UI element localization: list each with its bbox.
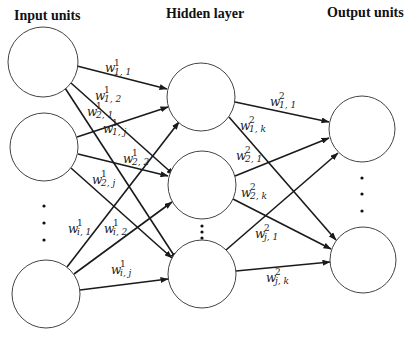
svg-text:1, j: 1, j: [112, 127, 126, 137]
weight-label-w1-i1: w 1 i, 1: [68, 218, 91, 237]
weight-label-w1-22: w 1 2, 2: [123, 148, 149, 167]
weight-label-w1-11: w 1 1, 1: [105, 58, 131, 77]
input-units-header: Input units: [14, 8, 81, 23]
weight-label-w2-j1: w 2 j, 1: [255, 223, 278, 242]
hidden-node-2: [168, 151, 236, 219]
svg-text:2, k: 2, k: [249, 191, 267, 201]
weight-label-w1-1j: w 1 1, j: [103, 118, 126, 137]
input-hidden-edges: [65, 66, 179, 290]
input-node-i: [12, 260, 80, 328]
svg-text:2, 1: 2, 1: [244, 154, 262, 164]
output-layer: [329, 96, 396, 293]
svg-text:1, 2: 1, 2: [104, 94, 121, 104]
output-node-1: [329, 96, 395, 162]
weight-label-w1-2j: w 1 2, j: [92, 169, 115, 188]
weight-label-w1-i2: w 1 i, 2: [104, 218, 128, 237]
svg-text:i, 1: i, 1: [77, 227, 91, 237]
edge-i3-h1: [67, 122, 179, 267]
output-ellipsis: [360, 176, 363, 212]
input-ellipsis: [42, 204, 45, 241]
svg-text:1, k: 1, k: [249, 124, 266, 134]
edge-h2-o2: [233, 199, 331, 249]
edge-h3-o1: [226, 153, 338, 250]
input-node-2: [10, 113, 78, 181]
weight-label-w2-2k: w 2 2, k: [241, 182, 267, 201]
svg-text:i, 2: i, 2: [113, 227, 128, 237]
hidden-layer-header: Hidden layer: [166, 6, 244, 21]
svg-text:1, 1: 1, 1: [279, 100, 296, 110]
weight-label-w2-jk: w 2 j, k: [266, 267, 289, 286]
weight-label-w1-ij: w 1 i, j: [111, 259, 132, 278]
input-layer: [8, 27, 80, 328]
svg-text:j, k: j, k: [273, 276, 289, 286]
output-units-header: Output units: [327, 5, 404, 20]
svg-text:2, j: 2, j: [100, 178, 115, 188]
hidden-ellipsis: [200, 224, 203, 239]
weight-label-w2-11: w 2 1, 1: [270, 91, 296, 110]
edge-h3-o2: [236, 262, 330, 271]
svg-text:i, j: i, j: [120, 268, 132, 278]
svg-text:2, 2: 2, 2: [131, 157, 149, 167]
hidden-layer: [167, 63, 236, 308]
output-node-k: [330, 227, 396, 293]
svg-text:j, 1: j, 1: [262, 232, 278, 242]
svg-text:2, 1: 2, 1: [95, 110, 113, 120]
edge-i3-h3: [80, 279, 168, 290]
edge-h1-o2: [229, 117, 336, 240]
weight-label-w2-1k: w 2 1, k: [240, 115, 266, 134]
svg-text:1, 1: 1, 1: [114, 67, 131, 77]
input-node-1: [8, 27, 78, 97]
weight-label-w2-21: w 2 2, 1: [236, 145, 262, 164]
hidden-node-j: [168, 240, 236, 308]
hidden-node-1: [167, 63, 235, 131]
neural-network-diagram: Input units Hidden layer Output units: [0, 0, 407, 337]
